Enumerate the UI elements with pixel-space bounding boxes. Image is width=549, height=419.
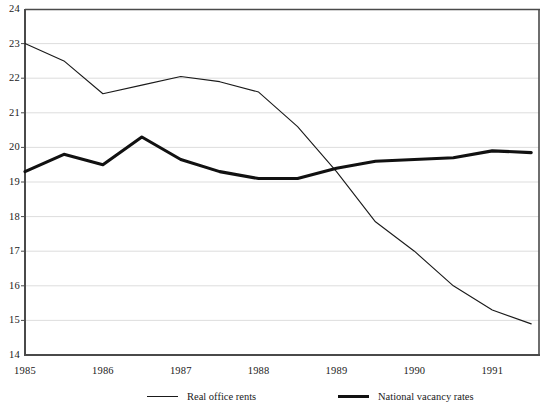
- y-tick-label: 18: [2, 212, 20, 223]
- y-tick-label: 19: [2, 177, 20, 188]
- chart-series-layer: [25, 44, 531, 324]
- x-tick-label: 1989: [317, 366, 357, 377]
- series-line-national-vacancy-rates: [25, 137, 531, 179]
- legend-item-real-office-rents[interactable]: Real office rents: [147, 391, 256, 402]
- x-tick-label: 1990: [394, 366, 434, 377]
- legend-swatch-thick-icon: [338, 395, 369, 398]
- y-tick-label: 14: [2, 350, 20, 361]
- y-tick-label: 16: [2, 281, 20, 292]
- chart-gridlines: [25, 44, 539, 321]
- legend-item-national-vacancy-rates[interactable]: National vacancy rates: [338, 391, 474, 402]
- y-tick-label: 22: [2, 73, 20, 84]
- x-tick-label: 1991: [472, 366, 512, 377]
- legend-label: National vacancy rates: [378, 391, 474, 402]
- x-tick-label: 1988: [239, 366, 279, 377]
- y-tick-label: 24: [2, 4, 20, 15]
- legend-swatch-thin-icon: [147, 396, 178, 397]
- y-tick-label: 23: [2, 39, 20, 50]
- legend-label: Real office rents: [187, 391, 256, 402]
- y-tick-label: 15: [2, 315, 20, 326]
- chart-plot-area: [0, 0, 549, 419]
- chart-figure: 2423222120191817161514 19851986198719881…: [0, 0, 549, 419]
- y-tick-label: 20: [2, 142, 20, 153]
- series-line-real-office-rents: [25, 44, 531, 324]
- x-tick-label: 1987: [161, 366, 201, 377]
- x-tick-label: 1985: [5, 366, 45, 377]
- y-tick-label: 17: [2, 246, 20, 257]
- x-tick-label: 1986: [83, 366, 123, 377]
- y-tick-label: 21: [2, 108, 20, 119]
